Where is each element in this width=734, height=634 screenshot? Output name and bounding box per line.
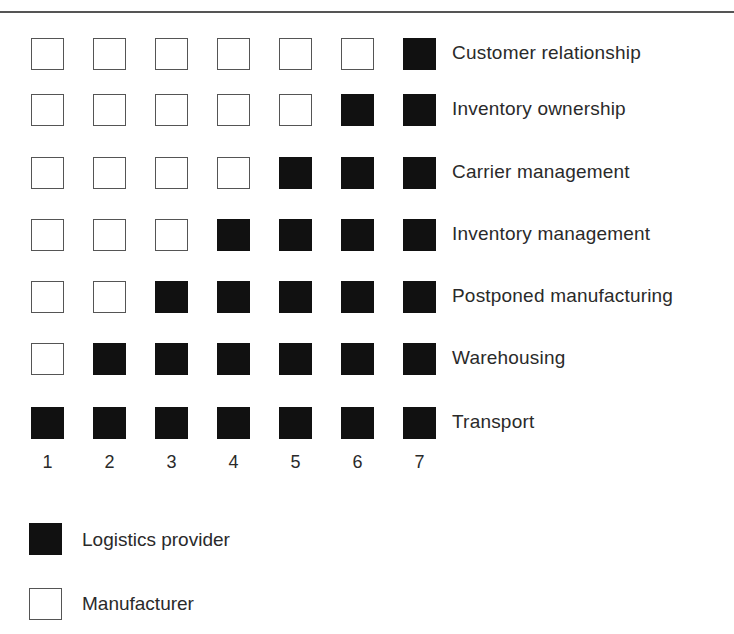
provider-cell <box>279 157 312 189</box>
manufacturer-cell <box>155 38 188 70</box>
manufacturer-cell <box>31 343 64 375</box>
manufacturer-cell <box>217 94 250 126</box>
manufacturer-cell <box>93 281 126 313</box>
row-label: Postponed manufacturing <box>452 285 673 307</box>
manufacturer-cell <box>31 94 64 126</box>
manufacturer-cell <box>217 38 250 70</box>
manufacturer-cell <box>31 157 64 189</box>
provider-cell <box>403 281 436 313</box>
manufacturer-cell <box>155 157 188 189</box>
provider-cell <box>279 281 312 313</box>
manufacturer-cell <box>31 38 64 70</box>
provider-cell <box>217 281 250 313</box>
row-label: Inventory ownership <box>452 98 626 120</box>
manufacturer-cell <box>217 157 250 189</box>
provider-cell <box>403 219 436 251</box>
legend-provider-label: Logistics provider <box>82 529 230 551</box>
provider-cell <box>403 343 436 375</box>
provider-cell <box>279 407 312 439</box>
provider-cell <box>403 407 436 439</box>
provider-cell <box>403 94 436 126</box>
row-label: Customer relationship <box>452 42 641 64</box>
provider-cell <box>217 407 250 439</box>
manufacturer-cell <box>31 219 64 251</box>
provider-cell <box>155 407 188 439</box>
provider-cell <box>279 219 312 251</box>
row-label: Carrier management <box>452 161 630 183</box>
provider-cell <box>155 281 188 313</box>
row-label: Warehousing <box>452 347 565 369</box>
provider-cell <box>217 343 250 375</box>
provider-cell <box>341 281 374 313</box>
provider-cell <box>341 343 374 375</box>
column-number: 1 <box>31 452 64 473</box>
manufacturer-cell <box>93 38 126 70</box>
row-label: Inventory management <box>452 223 650 245</box>
provider-cell <box>31 407 64 439</box>
manufacturer-cell <box>93 94 126 126</box>
top-rule <box>0 11 734 13</box>
provider-cell <box>341 219 374 251</box>
legend-provider-swatch-icon <box>29 523 62 555</box>
column-number: 5 <box>279 452 312 473</box>
manufacturer-cell <box>279 38 312 70</box>
legend-manufacturer-label: Manufacturer <box>82 593 194 615</box>
column-number: 7 <box>403 452 436 473</box>
provider-cell <box>403 157 436 189</box>
provider-cell <box>217 219 250 251</box>
provider-cell <box>93 343 126 375</box>
provider-cell <box>341 94 374 126</box>
manufacturer-cell <box>155 94 188 126</box>
legend-manufacturer-swatch-icon <box>29 588 62 620</box>
manufacturer-cell <box>279 94 312 126</box>
provider-cell <box>341 157 374 189</box>
row-label: Transport <box>452 411 534 433</box>
manufacturer-cell <box>93 219 126 251</box>
provider-cell <box>93 407 126 439</box>
provider-cell <box>341 407 374 439</box>
provider-cell <box>403 38 436 70</box>
provider-cell <box>155 343 188 375</box>
provider-cell <box>279 343 312 375</box>
column-number: 6 <box>341 452 374 473</box>
manufacturer-cell <box>31 281 64 313</box>
manufacturer-cell <box>155 219 188 251</box>
column-number: 3 <box>155 452 188 473</box>
manufacturer-cell <box>93 157 126 189</box>
column-number: 2 <box>93 452 126 473</box>
manufacturer-cell <box>341 38 374 70</box>
column-number: 4 <box>217 452 250 473</box>
